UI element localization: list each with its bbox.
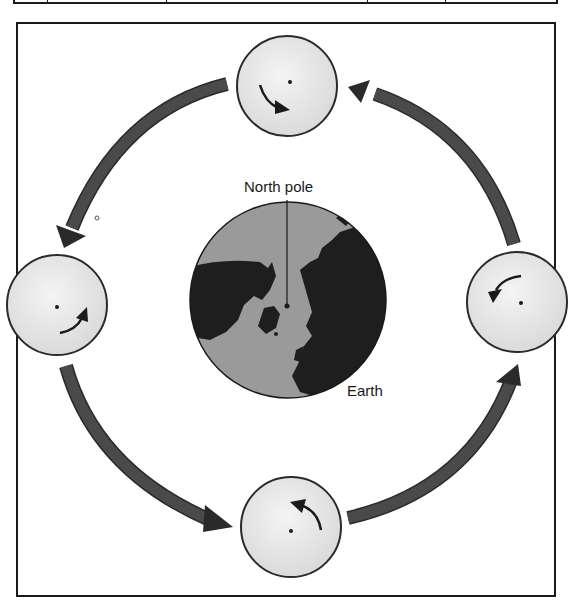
moon-center-dot <box>55 305 59 309</box>
north-pole-label: North pole <box>244 178 313 195</box>
moon-center-dot <box>519 301 523 305</box>
earth-globe <box>186 200 390 398</box>
moon-right <box>467 252 567 352</box>
moon-left <box>7 255 107 355</box>
earth-label: Earth <box>347 382 383 399</box>
speck <box>95 216 99 220</box>
moon-orbit-diagram <box>0 0 568 601</box>
orbit-arrow-top-to-left <box>56 84 227 248</box>
orbit-arrow-right-to-top <box>348 80 514 244</box>
moon-center-dot <box>289 529 293 533</box>
moon-center-dot <box>288 80 292 84</box>
moon-bottom <box>241 477 341 577</box>
orbit-arrow-left-to-bottom <box>66 366 233 532</box>
north-pole-dot <box>285 304 290 309</box>
moon-top <box>237 36 337 136</box>
